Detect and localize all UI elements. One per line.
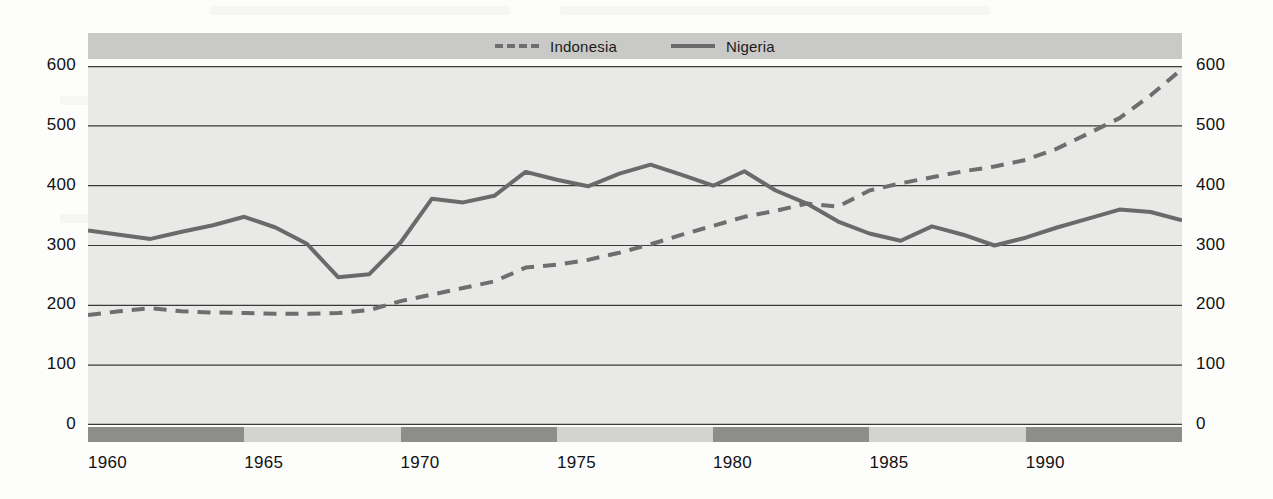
chart-canvas (88, 66, 1182, 425)
chart-legend: Indonesia Nigeria (88, 33, 1182, 59)
x-tick-label-1960: 1960 (88, 453, 127, 473)
legend-entry-indonesia: Indonesia (495, 39, 617, 54)
legend-label-indonesia: Indonesia (550, 39, 617, 54)
x-band-segment-1970 (401, 427, 557, 442)
y-tick-label-left-0: 0 (14, 414, 76, 434)
data-series-layer (88, 69, 1182, 315)
y-tick-label-left-400: 400 (14, 175, 76, 195)
y-tick-label-left-600: 600 (14, 55, 76, 75)
y-tick-label-right-0: 0 (1196, 414, 1266, 434)
plot-area (88, 66, 1182, 425)
solid-line-swatch-icon (671, 44, 715, 48)
y-tick-label-right-600: 600 (1196, 55, 1266, 75)
legend-entry-nigeria: Nigeria (671, 39, 775, 54)
x-tick-label-1965: 1965 (244, 453, 283, 473)
y-tick-label-right-300: 300 (1196, 235, 1266, 255)
x-tick-label-1980: 1980 (713, 453, 752, 473)
legend-label-nigeria: Nigeria (726, 39, 775, 54)
x-band-segment-1985 (869, 427, 1025, 442)
series-line-indonesia (88, 69, 1182, 315)
chart-figure: Indonesia Nigeria 0100200300400500600 01… (0, 0, 1273, 499)
y-tick-label-right-500: 500 (1196, 115, 1266, 135)
y-tick-label-right-400: 400 (1196, 175, 1266, 195)
y-tick-label-right-100: 100 (1196, 354, 1266, 374)
x-tick-label-1970: 1970 (401, 453, 440, 473)
x-band-segment-1965 (244, 427, 400, 442)
dashed-line-swatch-icon (495, 44, 539, 48)
y-tick-label-left-300: 300 (14, 235, 76, 255)
x-band-segment-1990 (1026, 427, 1182, 442)
x-tick-label-1975: 1975 (557, 453, 596, 473)
y-tick-label-left-500: 500 (14, 115, 76, 135)
x-axis-band (88, 427, 1182, 442)
y-tick-label-left-100: 100 (14, 354, 76, 374)
series-line-nigeria (88, 165, 1182, 278)
y-tick-label-right-200: 200 (1196, 294, 1266, 314)
y-tick-label-left-200: 200 (14, 294, 76, 314)
x-band-segment-1975 (557, 427, 713, 442)
x-tick-label-1990: 1990 (1026, 453, 1065, 473)
x-band-segment-1960 (88, 427, 244, 442)
x-tick-label-1985: 1985 (869, 453, 908, 473)
gridlines (88, 66, 1182, 425)
x-band-segment-1980 (713, 427, 869, 442)
